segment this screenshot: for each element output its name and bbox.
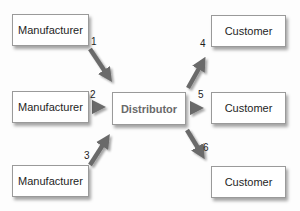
distributor-label: Distributor <box>121 103 177 115</box>
distributor-node: Distributor <box>112 92 186 125</box>
step-label-1: 1 <box>91 37 97 47</box>
step-label-2: 2 <box>90 90 96 100</box>
manufacturer-label: Manufacturer <box>18 101 83 113</box>
diagram-canvas: Manufacturer Manufacturer Manufacturer D… <box>0 0 300 211</box>
customer-node-1: Customer <box>211 15 286 47</box>
step-label-6: 6 <box>203 143 209 153</box>
step-label-3: 3 <box>84 151 90 161</box>
manufacturer-node-1: Manufacturer <box>12 14 89 46</box>
customer-node-3: Customer <box>211 166 286 198</box>
customer-label: Customer <box>225 25 273 37</box>
customer-node-2: Customer <box>211 92 286 124</box>
manufacturer-label: Manufacturer <box>18 175 83 187</box>
manufacturer-node-2: Manufacturer <box>12 91 89 123</box>
arrow-4 <box>188 63 202 88</box>
arrow-3 <box>90 140 106 165</box>
customer-label: Customer <box>225 102 273 114</box>
manufacturer-label: Manufacturer <box>18 24 83 36</box>
step-label-4: 4 <box>200 39 206 49</box>
customer-label: Customer <box>225 176 273 188</box>
arrow-6 <box>187 130 201 153</box>
manufacturer-node-3: Manufacturer <box>12 165 89 197</box>
arrow-1 <box>90 49 108 76</box>
step-label-5: 5 <box>198 90 204 100</box>
